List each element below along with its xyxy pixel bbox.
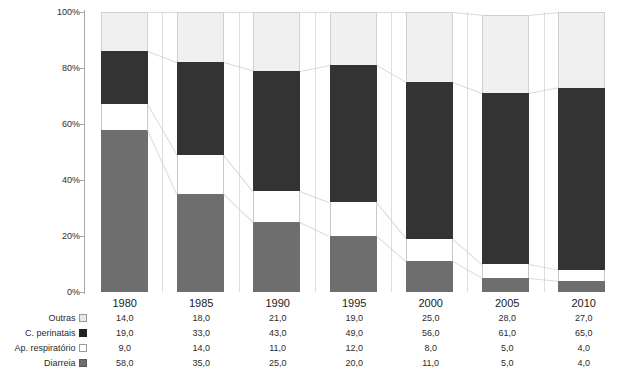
bar-segment-diarreia	[177, 194, 224, 292]
stack-connector-line	[377, 12, 406, 13]
table-cell: 27,0	[545, 311, 622, 326]
bar-segment-diarreia	[253, 222, 300, 292]
bar-segment-outras	[406, 12, 453, 82]
bar-segment-c-perinatais	[406, 82, 453, 239]
y-axis-tick-label: 80%	[36, 64, 80, 73]
y-axis-tick-labels: 100%80%60%40%20%0%	[32, 0, 80, 296]
white-swatch-icon	[79, 344, 87, 352]
legend-label-text: Ap. respiratório	[14, 343, 75, 353]
bar-segment-diarreia	[101, 130, 148, 292]
table-cell: 25,0	[239, 356, 315, 371]
bar-segment-ap-respirat-rio	[253, 191, 300, 222]
table-cell: 28,0	[469, 311, 545, 326]
bar-segment-outras	[177, 12, 224, 62]
bar-segment-ap-respirat-rio	[177, 155, 224, 194]
table-cell: 65,0	[545, 326, 622, 341]
y-axis-tick-mark	[78, 68, 85, 69]
table-cell: 58,0	[87, 356, 163, 371]
bar-segment-diarreia	[406, 261, 453, 292]
legend-row-label-c-perinatais: C. perinatais	[8, 326, 87, 341]
table-cell: 18,0	[163, 311, 239, 326]
bar-segment-outras	[558, 12, 605, 88]
table-column-header-1985: 1985	[163, 296, 239, 311]
bar-1980	[101, 12, 148, 292]
table-cell: 12,0	[316, 341, 392, 356]
table-cell: 49,0	[316, 326, 392, 341]
bar-segment-c-perinatais	[558, 88, 605, 270]
y-axis-tick-mark	[78, 12, 85, 13]
bar-1990	[253, 12, 300, 292]
table-cell: 14,0	[163, 341, 239, 356]
legend-row-label-diarreia: Diarreia	[8, 356, 87, 371]
bar-segment-c-perinatais	[177, 62, 224, 154]
table-row: Ap. respiratório9,014,011,012,08,05,04,0	[8, 341, 622, 356]
category-separator	[162, 12, 163, 292]
legend-label-text: C. perinatais	[25, 328, 76, 338]
stack-connector-line	[148, 12, 177, 13]
y-axis-tick-label: 60%	[36, 120, 80, 129]
legend-row-label-outras: Outras	[8, 311, 87, 326]
bar-segment-outras	[101, 12, 148, 51]
plot-area	[86, 12, 620, 292]
bar-segment-ap-respirat-rio	[101, 104, 148, 129]
bar-segment-ap-respirat-rio	[406, 239, 453, 261]
table-column-header-2005: 2005	[469, 296, 545, 311]
table-cell: 61,0	[469, 326, 545, 341]
bar-segment-outras	[330, 12, 377, 65]
bar-segment-c-perinatais	[253, 71, 300, 191]
black-swatch-icon	[79, 329, 87, 337]
table-cell: 20,0	[316, 356, 392, 371]
table-cell: 25,0	[392, 311, 468, 326]
table-cell: 43,0	[239, 326, 315, 341]
category-separator	[544, 12, 545, 292]
plot-region: 100%80%60%40%20%0%	[0, 0, 631, 296]
category-separator	[239, 12, 240, 292]
y-axis-tick-mark	[78, 236, 85, 237]
bar-1995	[330, 12, 377, 292]
legend-label-text: Outras	[48, 313, 75, 323]
bar-segment-ap-respirat-rio	[558, 270, 605, 281]
table-row: Diarreia58,035,025,020,011,05,04,0	[8, 356, 622, 371]
bar-segment-diarreia	[558, 281, 605, 292]
y-axis-tick-mark	[78, 180, 85, 181]
table-column-header-1980: 1980	[87, 296, 163, 311]
bar-2005	[482, 15, 529, 292]
table-cell: 9,0	[87, 341, 163, 356]
table-cell: 14,0	[87, 311, 163, 326]
y-axis-tick-mark	[78, 292, 85, 293]
table-body: Outras14,018,021,019,025,028,027,0C. per…	[8, 311, 622, 371]
bar-segment-outras	[482, 15, 529, 93]
table-cell: 8,0	[392, 341, 468, 356]
table-cell: 19,0	[316, 311, 392, 326]
table-header: 1980198519901995200020052010	[8, 296, 622, 311]
category-separator	[315, 12, 316, 292]
y-axis-tick-label: 100%	[36, 8, 80, 17]
table-cell: 21,0	[239, 311, 315, 326]
bar-segment-ap-respirat-rio	[482, 264, 529, 278]
table-cell: 56,0	[392, 326, 468, 341]
table-cell: 5,0	[469, 341, 545, 356]
bar-2000	[406, 12, 453, 292]
table-cell: 33,0	[163, 326, 239, 341]
bar-1985	[177, 12, 224, 292]
bar-2010	[558, 12, 605, 292]
legend-row-label-ap-respirat-rio: Ap. respiratório	[8, 341, 87, 356]
medium-gray-swatch-icon	[79, 359, 87, 367]
y-axis-tick-label: 40%	[36, 176, 80, 185]
bar-segment-ap-respirat-rio	[330, 202, 377, 236]
table-column-header-2000: 2000	[392, 296, 468, 311]
table-cell: 35,0	[163, 356, 239, 371]
table-cell: 4,0	[545, 341, 622, 356]
table-row: Outras14,018,021,019,025,028,027,0	[8, 311, 622, 326]
light-gray-swatch-icon	[79, 314, 87, 322]
table-cell: 5,0	[469, 356, 545, 371]
category-separator	[467, 12, 468, 292]
table-row: C. perinatais19,033,043,049,056,061,065,…	[8, 326, 622, 341]
table-cell: 19,0	[87, 326, 163, 341]
bar-segment-diarreia	[330, 236, 377, 292]
bar-segment-outras	[253, 12, 300, 71]
bar-segment-c-perinatais	[101, 51, 148, 104]
y-axis-line	[84, 10, 85, 294]
bar-segment-c-perinatais	[482, 93, 529, 264]
table-column-header-1990: 1990	[239, 296, 315, 311]
